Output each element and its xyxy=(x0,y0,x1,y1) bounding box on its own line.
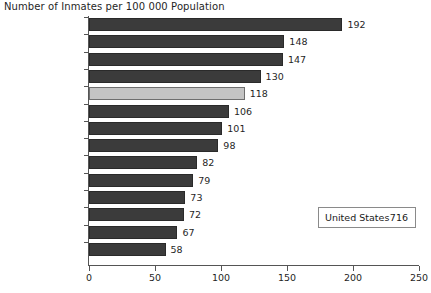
bar-value-label: 101 xyxy=(227,122,245,135)
bar xyxy=(89,208,184,221)
x-axis-tick xyxy=(419,266,420,271)
bar-value-label: 130 xyxy=(266,70,284,83)
bar xyxy=(89,243,166,256)
bar-value-label: 79 xyxy=(198,174,210,187)
united-states-annotation-box: United States 716 xyxy=(318,207,416,228)
bar-value-label: 148 xyxy=(289,35,307,48)
bar-value-label: 98 xyxy=(223,139,235,152)
bar-value-label: 72 xyxy=(189,208,201,221)
bar xyxy=(89,122,222,135)
bar xyxy=(89,105,229,118)
x-axis-tick-label: 200 xyxy=(344,272,362,283)
x-axis-tick-label: 50 xyxy=(149,272,161,283)
annotation-label: United States xyxy=(325,212,389,223)
bar-value-label: 67 xyxy=(182,226,194,239)
bar xyxy=(89,35,284,48)
bar xyxy=(89,70,261,83)
bar-value-label: 106 xyxy=(234,105,252,118)
bar xyxy=(89,174,193,187)
bar-value-label: 192 xyxy=(347,18,365,31)
x-axis-tick xyxy=(221,266,222,271)
bar-value-label: 147 xyxy=(288,53,306,66)
x-axis-tick-label: 250 xyxy=(410,272,428,283)
plot-area: New Zealand192England & Wales148Scotland… xyxy=(0,0,431,293)
bar xyxy=(89,191,185,204)
bar-value-label: 58 xyxy=(171,243,183,256)
x-axis-tick xyxy=(89,266,90,271)
x-axis-line xyxy=(88,265,419,266)
bar xyxy=(89,18,342,31)
bar-value-label: 82 xyxy=(202,156,214,169)
x-axis-tick-label: 100 xyxy=(212,272,230,283)
bar xyxy=(89,139,218,152)
bar-value-label: 73 xyxy=(190,191,202,204)
bar xyxy=(89,156,197,169)
x-axis-tick xyxy=(155,266,156,271)
bar xyxy=(89,87,245,100)
annotation-value: 716 xyxy=(390,212,408,223)
x-axis-tick xyxy=(287,266,288,271)
x-axis-tick-label: 0 xyxy=(86,272,92,283)
x-axis-tick xyxy=(353,266,354,271)
bar xyxy=(89,226,177,239)
bar xyxy=(89,53,283,66)
bar-value-label: 118 xyxy=(250,87,268,100)
x-axis-tick-label: 150 xyxy=(278,272,296,283)
